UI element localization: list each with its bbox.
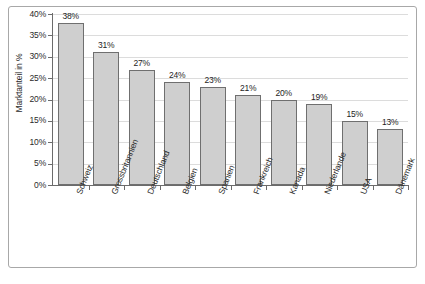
bar-value-label: 24%: [157, 71, 197, 80]
y-axis-tick: [48, 100, 53, 101]
bar: [271, 100, 297, 186]
bar: [58, 23, 84, 185]
y-axis-tick-label: 25%: [2, 74, 46, 83]
gridline: [53, 35, 408, 36]
bar-value-label: 31%: [86, 41, 126, 50]
bar: [200, 87, 226, 185]
y-axis-tick: [48, 57, 53, 58]
y-axis-tick-label: 40%: [2, 10, 46, 19]
bar-value-label: 38%: [51, 12, 91, 21]
x-axis-tick: [231, 186, 232, 190]
x-axis-tick: [266, 186, 267, 190]
x-axis-tick: [89, 186, 90, 190]
gridline: [53, 14, 408, 15]
y-axis-tick-label: 15%: [2, 116, 46, 125]
x-axis-tick: [408, 186, 409, 190]
bar-chart-figure: Marktanteil in % 0%5%10%15%20%25%30%35%4…: [0, 0, 425, 284]
x-axis-tick: [337, 186, 338, 190]
bar: [129, 70, 155, 185]
y-axis-tick: [48, 121, 53, 122]
x-axis-tick: [195, 186, 196, 190]
bar: [235, 95, 261, 185]
y-axis-tick-label: 20%: [2, 95, 46, 104]
x-axis-tick: [160, 186, 161, 190]
x-axis-tick: [302, 186, 303, 190]
y-axis-tick: [48, 78, 53, 79]
bar-value-label: 21%: [228, 84, 268, 93]
x-axis-tick: [373, 186, 374, 190]
bar: [164, 82, 190, 185]
bar: [306, 104, 332, 185]
y-axis-tick-label: 5%: [2, 159, 46, 168]
bar: [93, 52, 119, 185]
bar-value-label: 13%: [370, 118, 410, 127]
bar-value-label: 27%: [122, 59, 162, 68]
y-axis-tick: [48, 164, 53, 165]
y-axis-tick-label: 0%: [2, 181, 46, 190]
bar-value-label: 20%: [264, 89, 304, 98]
x-axis-tick: [124, 186, 125, 190]
y-axis-tick-labels: 0%5%10%15%20%25%30%35%40%: [0, 0, 46, 284]
y-axis-tick: [48, 185, 53, 186]
bar-value-label: 15%: [335, 110, 375, 119]
bar-value-label: 19%: [299, 93, 339, 102]
y-axis-tick-label: 10%: [2, 138, 46, 147]
y-axis-tick: [48, 142, 53, 143]
bar-value-label: 23%: [193, 76, 233, 85]
y-axis-tick: [48, 35, 53, 36]
y-axis-tick-label: 30%: [2, 52, 46, 61]
y-axis-tick-label: 35%: [2, 31, 46, 40]
